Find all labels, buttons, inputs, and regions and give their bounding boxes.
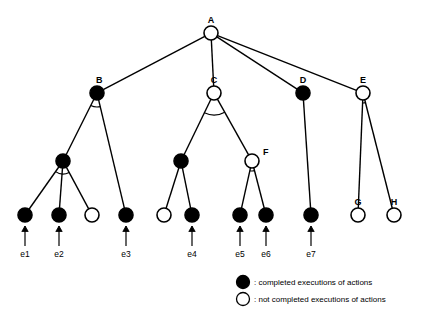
tree-nodes — [18, 26, 401, 222]
node-label-F: F — [263, 147, 269, 157]
execution-label-e7: e7 — [306, 249, 316, 259]
tree-node-A[interactable] — [204, 26, 218, 40]
arrow-head — [237, 226, 243, 232]
tree-edge — [66, 167, 88, 209]
task-tree-diagram: e1e2e3e4e5e6e7 ABCDEFGH : completed exec… — [0, 0, 432, 321]
tree-edge — [358, 100, 362, 208]
tree-node[interactable] — [119, 208, 133, 222]
arrow-head — [263, 226, 269, 232]
execution-label-e4: e4 — [187, 249, 197, 259]
tree-node-G[interactable] — [351, 208, 365, 222]
tree-node-F[interactable] — [245, 154, 259, 168]
execution-label-e2: e2 — [54, 249, 64, 259]
tree-edge — [303, 100, 310, 208]
execution-arrow-e1: e1 — [20, 226, 30, 259]
node-label-E: E — [360, 75, 366, 85]
node-label-H: H — [391, 197, 398, 207]
tree-edge — [99, 100, 125, 208]
execution-label-e3: e3 — [121, 249, 131, 259]
tree-node[interactable] — [157, 208, 171, 222]
tree-node[interactable] — [304, 208, 318, 222]
tree-node[interactable] — [18, 208, 32, 222]
tree-node[interactable] — [185, 208, 199, 222]
execution-arrow-e7: e7 — [306, 226, 316, 259]
legend: : completed executions of actions : not … — [237, 276, 386, 306]
execution-label-e1: e1 — [20, 249, 30, 259]
arrow-head — [56, 226, 62, 232]
execution-label-e5: e5 — [235, 249, 245, 259]
tree-node[interactable] — [233, 208, 247, 222]
tree-node-D[interactable] — [296, 86, 310, 100]
tree-edge — [182, 168, 190, 208]
tree-edge — [365, 100, 393, 208]
and-arc — [204, 112, 224, 115]
execution-arrow-e3: e3 — [121, 226, 131, 259]
arrow-head — [22, 226, 28, 232]
legend-filled-label: : completed executions of actions — [254, 278, 372, 287]
tree-node[interactable] — [174, 154, 188, 168]
legend-open-node-icon — [237, 293, 250, 306]
legend-filled-node-icon — [237, 276, 250, 289]
tree-edge — [242, 168, 251, 208]
tree-edge — [29, 167, 59, 210]
tree-node[interactable] — [259, 208, 273, 222]
tree-node-C[interactable] — [207, 86, 221, 100]
tree-node-E[interactable] — [356, 86, 370, 100]
node-labels: ABCDEFGH — [96, 15, 397, 207]
legend-open-label: : not completed executions of actions — [254, 295, 386, 304]
tree-node[interactable] — [52, 208, 66, 222]
tree-node[interactable] — [56, 154, 70, 168]
node-label-B: B — [96, 75, 103, 85]
node-label-G: G — [354, 197, 361, 207]
diagram-canvas: e1e2e3e4e5e6e7 ABCDEFGH : completed exec… — [0, 0, 432, 321]
tree-edges — [29, 36, 392, 210]
and-arc — [91, 106, 101, 107]
tree-node[interactable] — [85, 208, 99, 222]
tree-edge — [254, 168, 264, 208]
tree-node-B[interactable] — [90, 86, 104, 100]
tree-edge — [166, 168, 179, 209]
execution-arrow-e4: e4 — [187, 226, 197, 259]
arrow-head — [308, 226, 314, 232]
execution-arrow-e5: e5 — [235, 226, 245, 259]
tree-edge — [217, 99, 248, 155]
execution-label-e6: e6 — [261, 249, 271, 259]
execution-arrow-e6: e6 — [261, 226, 271, 259]
arrow-head — [123, 226, 129, 232]
tree-node-H[interactable] — [387, 208, 401, 222]
tree-edge — [184, 99, 211, 154]
node-label-D: D — [300, 75, 307, 85]
execution-arrows: e1e2e3e4e5e6e7 — [20, 226, 316, 259]
arrow-head — [189, 226, 195, 232]
tree-edge — [103, 36, 205, 89]
node-label-C: C — [211, 75, 218, 85]
node-label-A: A — [208, 15, 215, 25]
execution-arrow-e2: e2 — [54, 226, 64, 259]
tree-edge — [66, 99, 94, 154]
